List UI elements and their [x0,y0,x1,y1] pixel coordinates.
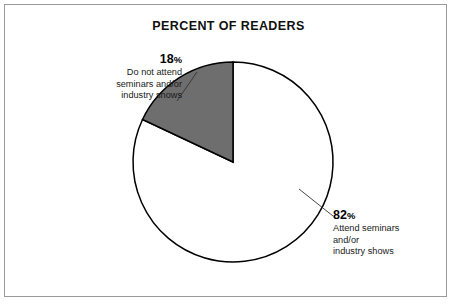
callout-major-percent: 82% [333,208,445,223]
pie-chart [0,0,457,306]
callout-minor-percent: 18% [78,52,182,67]
callout-minor-percent-symbol: % [174,54,182,65]
callout-do-not-attend: 18% Do not attend seminars and/or indust… [78,52,182,102]
callout-major-percent-value: 82 [333,208,347,222]
callout-minor-line-1: Do not attend [78,67,182,79]
chart-page: PERCENT OF READERS 18% Do not attend sem… [0,0,457,306]
callout-major-line-3: industry shows [333,246,445,258]
callout-minor-percent-value: 18 [160,52,174,66]
callout-minor-line-2: seminars and/or [78,79,182,91]
callout-attend: 82% Attend seminars and/or industry show… [333,208,445,258]
callout-major-line-1: Attend seminars [333,223,445,235]
callout-major-line-2: and/or [333,235,445,247]
callout-major-percent-symbol: % [347,210,355,221]
callout-minor-line-3: industry shows [78,90,182,102]
